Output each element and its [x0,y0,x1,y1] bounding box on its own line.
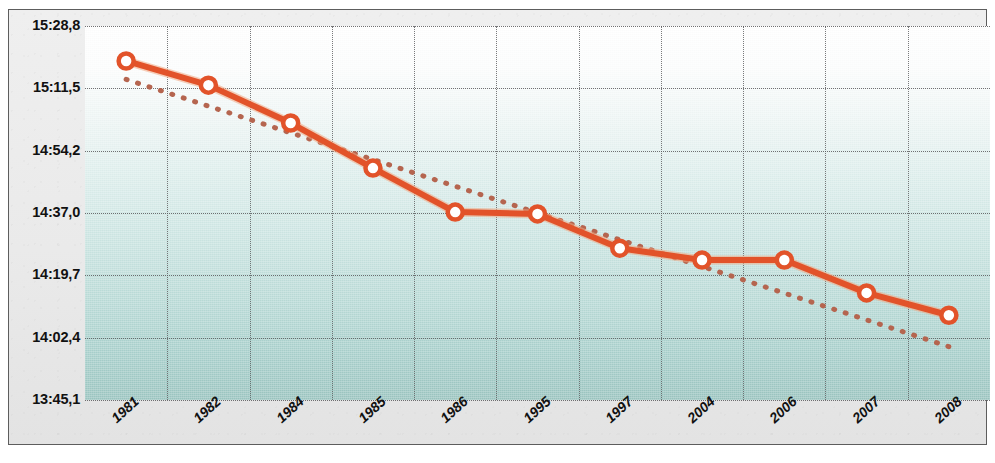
data-point-marker[interactable]: 1997 14:27,2 [612,241,627,256]
series-line [126,61,949,315]
y-tick-label: 14:37,0 [2,204,80,220]
y-tick-label: 15:28,8 [2,17,80,33]
data-point-marker[interactable]: 2008 14:08,6 [941,308,956,323]
y-tick-label: 13:45,1 [2,391,80,407]
data-point-marker[interactable]: 2004 14:23,9 [695,253,710,268]
y-axis-tick-labels: 15:28,815:11,514:54,214:37,014:19,714:02… [0,26,80,400]
y-tick-label: 14:02,4 [2,329,80,345]
y-tick-label: 15:11,5 [2,79,80,95]
x-axis-tick-labels: 1981198219841985198619951997200420062007… [85,406,990,461]
chart-screenshot: 15:28,815:11,514:54,214:37,014:19,714:02… [0,0,995,463]
y-tick-label: 14:54,2 [2,142,80,158]
data-point-marker[interactable]: 2006 14:23,9 [777,253,792,268]
data-point-marker[interactable]: 1986 14:37,2 [448,205,463,220]
data-point-marker[interactable]: 1984 15:01,9 [283,116,298,131]
y-tick-label: 14:19,7 [2,266,80,282]
data-point-marker[interactable]: 1995 14:36,7 [530,206,545,221]
data-point-marker[interactable]: 1982 15:12,4 [201,78,216,93]
data-point-marker[interactable]: 2007 14:14,8 [859,285,874,300]
chart-series-layer: 1981 15:19,11982 15:12,41984 15:01,91985… [85,26,990,400]
data-point-marker[interactable]: 1985 14:49,4 [365,161,380,176]
data-point-marker[interactable]: 1981 15:19,1 [119,53,134,68]
